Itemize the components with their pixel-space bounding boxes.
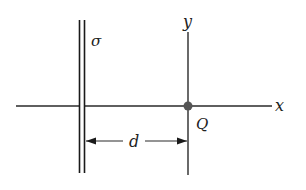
x-axis-label: x — [275, 96, 284, 115]
point-q-label: Q — [196, 115, 208, 133]
diagram-canvas: σ y x Q d — [0, 0, 306, 190]
sigma-label: σ — [91, 32, 102, 50]
y-axis-label: y — [182, 12, 193, 31]
distance-label: d — [129, 132, 139, 151]
charged-plane — [80, 20, 86, 174]
point-q-marker — [184, 102, 193, 111]
